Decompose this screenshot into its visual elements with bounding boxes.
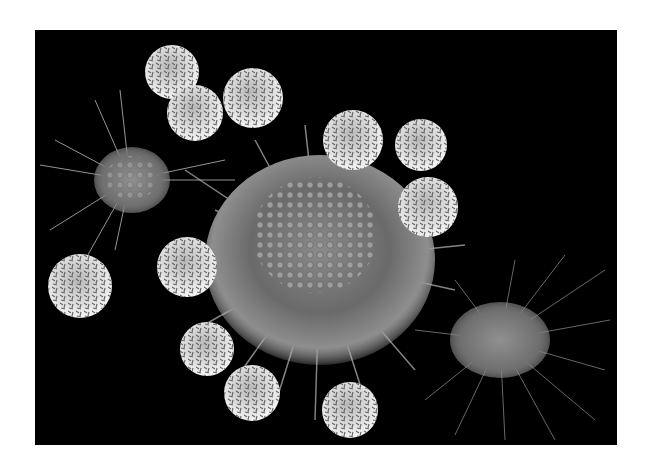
small-cell [180,322,234,376]
small-cell [167,85,223,141]
small-cell [48,254,112,318]
micrograph-photo [35,30,617,445]
small-cell [395,119,447,171]
small-cell [398,177,458,237]
small-cell [157,237,217,297]
small-cell [323,110,383,170]
small-cell [322,382,378,438]
small-cell [224,365,280,421]
cells-illustration [35,30,617,445]
small-cell [223,68,283,128]
right-cell [450,302,550,378]
